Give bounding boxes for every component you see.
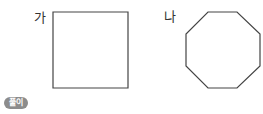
square-figure: [53, 12, 128, 88]
figures-canvas: [0, 0, 263, 114]
octagon-figure: [186, 12, 260, 88]
solution-badge: 풀이: [4, 97, 28, 109]
